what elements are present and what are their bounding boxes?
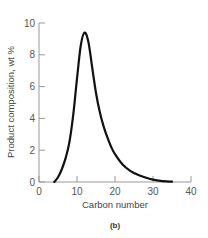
panel-label: (b) — [110, 221, 121, 230]
x-tick-label: 10 — [71, 186, 83, 197]
y-tick-label: 8 — [29, 49, 35, 60]
y-axis: 0246810 — [24, 18, 45, 188]
y-tick-label: 2 — [29, 145, 35, 156]
x-tick-label: 0 — [36, 186, 42, 197]
distribution-curve — [54, 32, 172, 182]
x-axis: 010203040 — [36, 176, 197, 197]
chart: 0246810 010203040 Product composition, w… — [0, 0, 208, 238]
y-tick-label: 6 — [29, 81, 35, 92]
y-axis-label: Product composition, wt % — [5, 45, 16, 157]
x-tick-label: 40 — [185, 186, 197, 197]
x-tick-label: 20 — [109, 186, 121, 197]
y-tick-label: 10 — [24, 18, 36, 29]
y-tick-label: 4 — [29, 113, 35, 124]
y-tick-label: 0 — [29, 177, 35, 188]
x-tick-label: 30 — [147, 186, 159, 197]
x-axis-label: Carbon number — [82, 199, 148, 210]
